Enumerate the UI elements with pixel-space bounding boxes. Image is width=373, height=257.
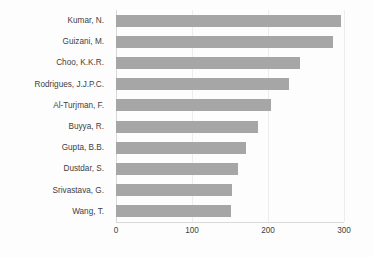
bar xyxy=(116,78,289,90)
bar-row xyxy=(116,116,344,137)
category-label: Gupta, B.B. xyxy=(62,137,104,158)
bar-row xyxy=(116,74,344,95)
x-tick-label: 0 xyxy=(114,226,119,235)
y-axis-category-labels: Kumar, N. Guizani, M. Choo, K.K.R. Rodri… xyxy=(0,10,110,222)
bar-row xyxy=(116,52,344,73)
bar-row xyxy=(116,95,344,116)
bar xyxy=(116,57,300,69)
bar-row xyxy=(116,201,344,222)
bar xyxy=(116,205,231,217)
x-tick-label: 100 xyxy=(185,226,199,235)
category-label: Choo, K.K.R. xyxy=(56,52,104,73)
category-label: Srivastava, G. xyxy=(53,180,104,201)
category-label: Kumar, N. xyxy=(68,10,104,31)
bar-row xyxy=(116,31,344,52)
bar xyxy=(116,36,333,48)
plot-area xyxy=(116,10,344,222)
gridline-300 xyxy=(344,10,345,222)
bar xyxy=(116,15,341,27)
bar-row xyxy=(116,158,344,179)
bar xyxy=(116,163,238,175)
bar xyxy=(116,121,258,133)
category-label: Al-Turjman, F. xyxy=(53,95,104,116)
bar xyxy=(116,142,246,154)
category-label: Buyya, R. xyxy=(69,116,105,137)
bar-chart: Kumar, N. Guizani, M. Choo, K.K.R. Rodri… xyxy=(0,0,373,257)
bar xyxy=(116,99,271,111)
x-axis-line xyxy=(116,222,344,223)
category-label: Wang, T. xyxy=(72,201,104,222)
bar-row xyxy=(116,10,344,31)
x-tick-label: 200 xyxy=(261,226,275,235)
x-axis-tick-labels: 0 100 200 300 xyxy=(116,226,344,244)
category-label: Guizani, M. xyxy=(63,31,104,52)
bar-row xyxy=(116,180,344,201)
bar xyxy=(116,184,232,196)
category-label: Dustdar, S. xyxy=(63,158,104,179)
category-label: Rodrigues, J.J.P.C. xyxy=(35,74,104,95)
bar-row xyxy=(116,137,344,158)
x-tick-label: 300 xyxy=(337,226,351,235)
